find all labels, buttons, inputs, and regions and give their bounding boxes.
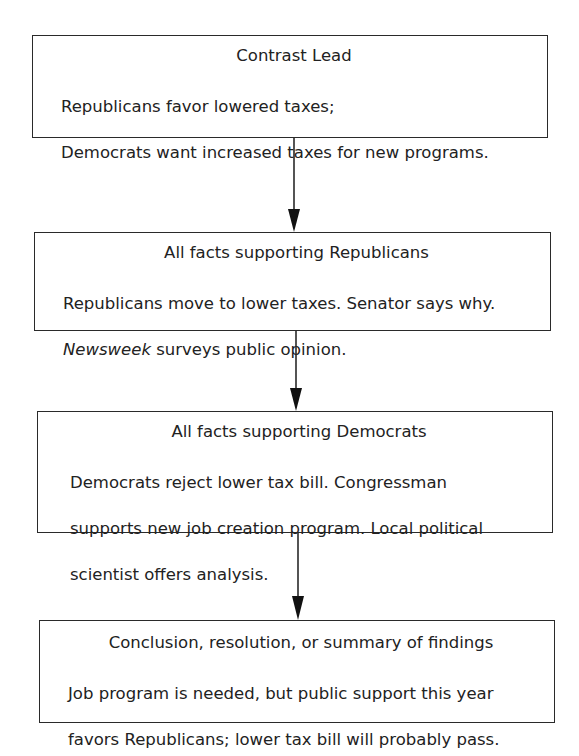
box-title: Conclusion, resolution, or summary of fi… — [62, 633, 540, 653]
box-title: All facts supporting Republicans — [57, 243, 536, 263]
flow-box-conclusion: Conclusion, resolution, or summary of fi… — [39, 620, 555, 723]
body-line-rest: surveys public opinion. — [156, 340, 346, 359]
body-line: Republicans favor lowered taxes; — [61, 95, 533, 118]
body-line: Republicans move to lower taxes. Senator… — [63, 292, 536, 315]
arrow-down-icon — [288, 330, 304, 412]
body-line: favors Republicans; lower tax bill will … — [68, 728, 540, 751]
body-line: Job program is needed, but public suppor… — [68, 682, 540, 705]
flow-box-contrast-lead: Contrast Lead Republicans favor lowered … — [32, 35, 548, 138]
body-line: Democrats reject lower tax bill. Congres… — [70, 471, 538, 494]
flow-box-republican-facts: All facts supporting Republicans Republi… — [34, 232, 551, 331]
publication-name: Newsweek — [63, 340, 151, 359]
arrow-down-icon — [290, 532, 306, 621]
arrow-down-icon — [286, 137, 302, 233]
box-title: All facts supporting Democrats — [60, 422, 538, 442]
box-title: Contrast Lead — [55, 46, 533, 66]
box-body: Job program is needed, but public suppor… — [62, 659, 540, 756]
flow-box-democrat-facts: All facts supporting Democrats Democrats… — [37, 411, 553, 533]
